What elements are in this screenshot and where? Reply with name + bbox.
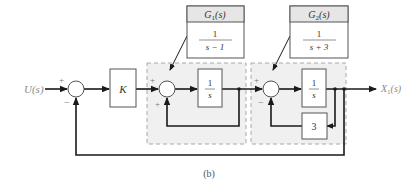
g1-numerator: 1 bbox=[213, 29, 218, 39]
summing-junction-3 bbox=[263, 81, 279, 97]
int2-numerator: 1 bbox=[312, 78, 317, 88]
g1-dashed-region bbox=[147, 63, 246, 144]
output-label: X1(s) bbox=[380, 83, 402, 96]
input-label: U(s) bbox=[24, 83, 44, 96]
g2-denominator: s + 3 bbox=[310, 42, 329, 52]
figure-caption: (b) bbox=[203, 168, 215, 180]
summing-junction-2 bbox=[159, 81, 175, 97]
int2-denominator: s bbox=[312, 90, 316, 100]
sum3-plus-sign: + bbox=[254, 75, 259, 85]
branch-point-outer bbox=[342, 87, 346, 91]
g1-denominator: s − 1 bbox=[206, 42, 225, 52]
sum1-plus-sign: + bbox=[59, 75, 64, 85]
branch-point-loop2 bbox=[333, 87, 337, 91]
int1-numerator: 1 bbox=[208, 78, 213, 88]
summing-junction-1 bbox=[68, 81, 84, 97]
sum1-minus-sign: − bbox=[64, 97, 70, 108]
sum2-plus-sign: + bbox=[150, 75, 155, 85]
g2-dashed-region bbox=[251, 63, 346, 144]
gain-k-label: K bbox=[118, 83, 127, 95]
block-diagram: U(s) + − + + + − K 1 s 1 s 3 G1(s) 1 s −… bbox=[0, 0, 418, 186]
integrator2-block bbox=[302, 69, 326, 107]
sum3-minus-sign: − bbox=[258, 97, 264, 108]
g2-numerator: 1 bbox=[317, 29, 322, 39]
feedback-gain-label: 3 bbox=[312, 121, 317, 132]
int1-denominator: s bbox=[208, 90, 212, 100]
branch-point-loop1 bbox=[237, 87, 241, 91]
integrator1-block bbox=[198, 69, 222, 107]
sum2-bottom-plus-sign: + bbox=[155, 99, 160, 109]
